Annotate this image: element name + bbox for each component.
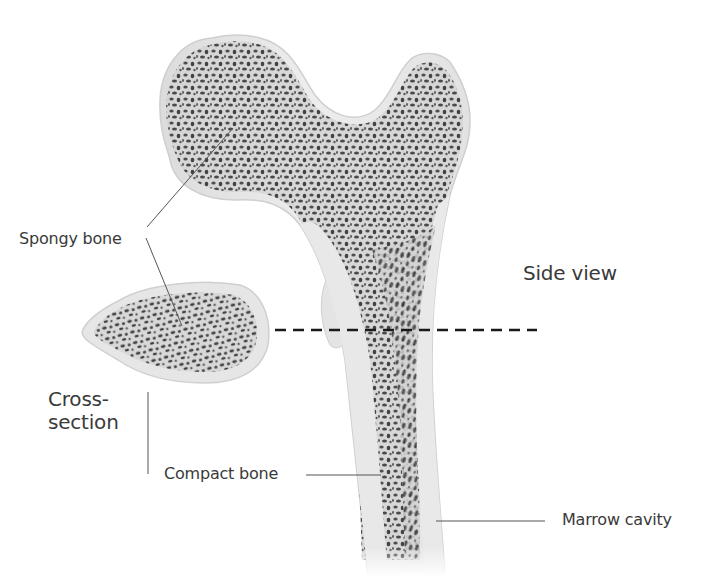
label-compact-bone: Compact bone — [164, 465, 278, 483]
label-cross-section: Cross- section — [48, 388, 119, 434]
label-cross-section-line1: Cross- — [48, 388, 119, 411]
label-marrow-cavity: Marrow cavity — [562, 511, 672, 529]
femur-illustration — [0, 0, 706, 577]
label-spongy-bone: Spongy bone — [19, 230, 122, 248]
label-side-view: Side view — [523, 262, 617, 285]
label-cross-section-line2: section — [48, 411, 119, 434]
bone-diagram: Spongy bone Side view Cross- section Com… — [0, 0, 706, 577]
